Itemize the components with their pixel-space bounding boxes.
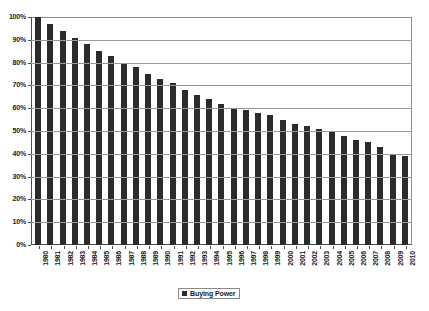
x-axis-tick-label: 2001: [299, 251, 306, 266]
y-axis-tick-mark: [28, 199, 31, 200]
x-axis-tick-label: 1982: [67, 251, 74, 266]
bar[interactable]: [108, 56, 114, 245]
x-axis-tick-label: 2002: [311, 251, 318, 266]
y-axis-tick-mark: [28, 245, 31, 246]
x-axis-tick-mark: [39, 246, 40, 249]
x-axis-tick-label: 2003: [323, 251, 330, 266]
x-axis-tick-label: 1988: [140, 251, 147, 266]
x-axis-tick-mark: [125, 246, 126, 249]
x-axis-tick-mark: [174, 246, 175, 249]
gridline: [31, 40, 412, 41]
bar[interactable]: [353, 140, 359, 245]
bar[interactable]: [316, 129, 322, 245]
x-axis-tick-mark: [406, 246, 407, 249]
bar[interactable]: [280, 120, 286, 245]
x-axis-tick-label: 1994: [213, 251, 220, 266]
x-axis-tick-label: 1989: [152, 251, 159, 266]
bar[interactable]: [255, 113, 261, 245]
gridline: [31, 199, 412, 200]
x-axis-tick-mark: [284, 246, 285, 249]
bar[interactable]: [402, 156, 408, 245]
x-axis-tick-label: 1995: [226, 251, 233, 266]
x-axis-tick-label: 1992: [189, 251, 196, 266]
bar[interactable]: [72, 38, 78, 245]
x-axis-tick-label: 2009: [397, 251, 404, 266]
y-axis-tick-mark: [28, 63, 31, 64]
bar[interactable]: [267, 115, 273, 245]
y-axis-tick-label: 30%: [0, 173, 26, 181]
bar[interactable]: [157, 79, 163, 245]
x-axis-tick-label: 1983: [79, 251, 86, 266]
x-axis-tick-label: 1986: [115, 251, 122, 266]
chart-legend: Buying Power: [178, 288, 240, 299]
x-axis-tick-mark: [186, 246, 187, 249]
x-axis-tick-label: 2005: [348, 251, 355, 266]
x-axis: 1980198119821983198419851986198719881989…: [32, 246, 411, 286]
x-axis-tick-mark: [369, 246, 370, 249]
x-axis-tick-label: 1987: [128, 251, 135, 266]
y-axis-tick-label: 60%: [0, 104, 26, 112]
x-axis-tick-mark: [51, 246, 52, 249]
gridline: [31, 108, 412, 109]
x-axis-tick-label: 1991: [177, 251, 184, 266]
x-axis-tick-label: 1998: [262, 251, 269, 266]
bar[interactable]: [47, 24, 53, 245]
x-axis-tick-label: 1985: [103, 251, 110, 266]
x-axis-tick-mark: [137, 246, 138, 249]
gridline: [31, 63, 412, 64]
buying-power-bar-chart: 0%10%20%30%40%50%60%70%80%90%100% 198019…: [0, 0, 429, 311]
gridline: [31, 222, 412, 223]
x-axis-tick-label: 1980: [42, 251, 49, 266]
bar[interactable]: [218, 104, 224, 245]
bar[interactable]: [96, 51, 102, 245]
x-axis-tick-label: 1996: [238, 251, 245, 266]
x-axis-tick-mark: [100, 246, 101, 249]
gridline: [31, 85, 412, 86]
bar[interactable]: [84, 44, 90, 245]
bar[interactable]: [365, 142, 371, 245]
bar[interactable]: [304, 126, 310, 245]
x-axis-tick-mark: [247, 246, 248, 249]
bar[interactable]: [341, 136, 347, 245]
bar[interactable]: [292, 124, 298, 245]
y-axis-tick-label: 40%: [0, 150, 26, 158]
x-axis-tick-mark: [394, 246, 395, 249]
x-axis-tick-mark: [259, 246, 260, 249]
legend-swatch-icon: [182, 291, 187, 296]
y-axis-tick-label: 80%: [0, 59, 26, 67]
y-axis-tick-mark: [28, 222, 31, 223]
bar[interactable]: [377, 147, 383, 245]
bar[interactable]: [133, 67, 139, 245]
y-axis-tick-label: 100%: [0, 13, 26, 21]
y-axis-tick-label: 50%: [0, 127, 26, 135]
x-axis-tick-mark: [210, 246, 211, 249]
x-axis-tick-mark: [88, 246, 89, 249]
y-axis-tick-label: 10%: [0, 218, 26, 226]
x-axis-tick-mark: [64, 246, 65, 249]
x-axis-tick-label: 1993: [201, 251, 208, 266]
y-axis-tick-mark: [28, 40, 31, 41]
bar[interactable]: [329, 131, 335, 245]
y-axis-tick-mark: [28, 154, 31, 155]
x-axis-tick-label: 1997: [250, 251, 257, 266]
bar[interactable]: [145, 74, 151, 245]
x-axis-tick-mark: [149, 246, 150, 249]
y-axis-tick-label: 20%: [0, 195, 26, 203]
x-axis-tick-label: 2004: [336, 251, 343, 266]
x-axis-tick-label: 1984: [91, 251, 98, 266]
x-axis-tick-mark: [161, 246, 162, 249]
x-axis-tick-mark: [223, 246, 224, 249]
plot-wrapper: [31, 17, 412, 245]
y-axis-tick-label: 0%: [0, 241, 26, 249]
x-axis-tick-mark: [198, 246, 199, 249]
x-axis-tick-label: 2008: [384, 251, 391, 266]
y-axis-tick-label: 70%: [0, 81, 26, 89]
x-axis-tick-mark: [296, 246, 297, 249]
y-axis-tick-mark: [28, 17, 31, 18]
x-axis-tick-mark: [308, 246, 309, 249]
y-axis-tick-mark: [28, 177, 31, 178]
gridline: [31, 154, 412, 155]
y-axis-tick-mark: [28, 85, 31, 86]
x-axis-tick-mark: [112, 246, 113, 249]
x-axis-tick-mark: [333, 246, 334, 249]
